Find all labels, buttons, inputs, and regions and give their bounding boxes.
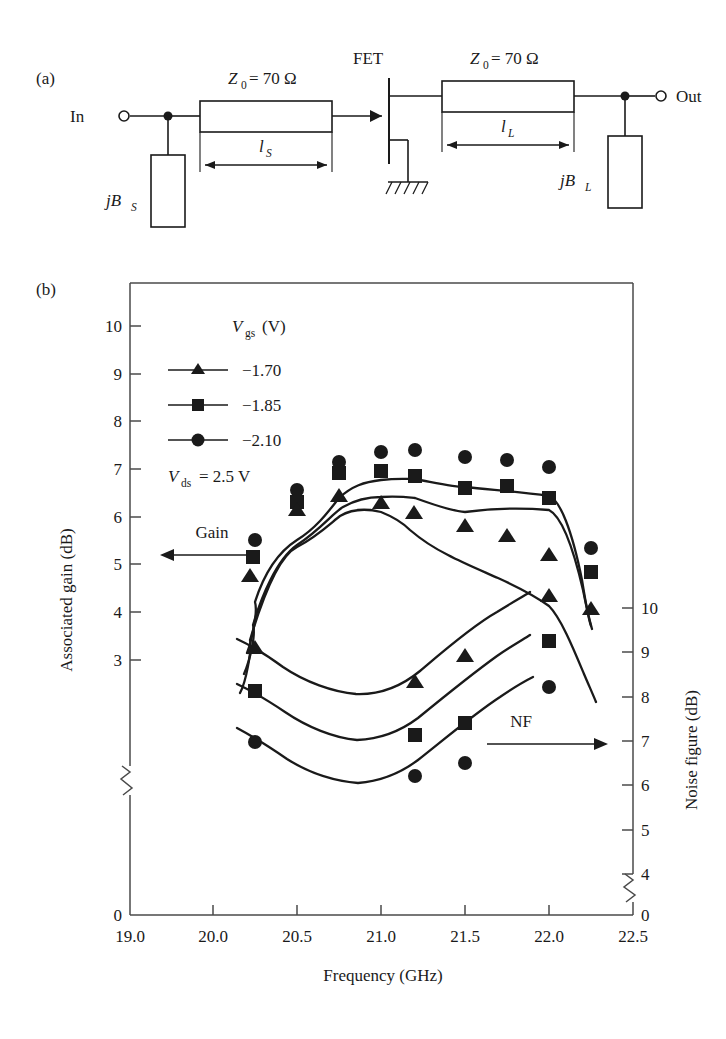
output-terminal <box>656 91 666 101</box>
ls-arrow-left <box>205 161 215 169</box>
right-tick-label-5: 5 <box>641 821 650 840</box>
x-tick-label-21.5: 21.5 <box>450 927 480 946</box>
ground-hatch-1 <box>386 182 392 194</box>
load-node-dot <box>621 92 630 101</box>
left-axis-break-mark <box>121 766 132 795</box>
legend-title: V gs (V) <box>232 317 286 340</box>
nf-label: NF <box>510 712 532 731</box>
z0-source-symbol: Z <box>228 69 238 88</box>
legend-label-1: −1.70 <box>242 361 281 380</box>
z0-source-label: Z 0 = 70 Ω <box>228 69 297 91</box>
legend-title-symbol: V <box>232 317 245 336</box>
right-axis-break-mark <box>624 874 635 902</box>
z0-load-label: Z 0 = 70 Ω <box>470 49 539 71</box>
arrow-left-icon <box>160 549 174 561</box>
left-tick-label-10: 10 <box>105 317 122 336</box>
z0-load-value: = 70 Ω <box>491 49 539 68</box>
source-node-dot <box>164 112 173 121</box>
circuit-diagram-panel: (a) In Out FET Z 0 = 70 Ω Z 0 = 70 Ω l S… <box>0 0 726 250</box>
jbl-label: jB L <box>558 171 591 193</box>
y-axis-left-title: Associated gain (dB) <box>57 528 76 672</box>
legend-title-sub: gs <box>245 327 256 340</box>
legend-label-3: −2.10 <box>242 431 281 450</box>
y-axis-right-title: Noise figure (dB) <box>682 690 701 810</box>
right-tick-label-7: 7 <box>641 732 650 751</box>
nf-curve-square <box>237 635 530 740</box>
lL-symbol: l <box>501 117 506 136</box>
x-tick-label-22.5: 22.5 <box>618 927 648 946</box>
lL-sub: L <box>507 127 514 139</box>
ground-hatch-2 <box>395 182 401 194</box>
ground-hatch-5 <box>422 182 428 194</box>
left-tick-label-0: 0 <box>114 906 123 925</box>
right-tick-label-0: 0 <box>641 906 650 925</box>
right-tick-label-9: 9 <box>641 643 650 662</box>
right-tick-label-4: 4 <box>641 865 650 884</box>
ground-hatch-4 <box>413 182 419 194</box>
legend-title-unit: (V) <box>262 317 286 336</box>
triangle-marker-icon <box>191 363 205 374</box>
jbl-sub: L <box>584 181 591 193</box>
fet-label: FET <box>353 49 384 68</box>
left-tick-label-7: 7 <box>114 460 123 479</box>
vds-rest: = 2.5 V <box>199 467 251 486</box>
panel-b-label: (b) <box>36 280 56 299</box>
lL-label: l L <box>501 117 514 139</box>
legend-item-triangle: −1.70 <box>168 361 281 380</box>
x-tick-label-22.0: 22.0 <box>534 927 564 946</box>
circle-marker-icon <box>192 434 205 447</box>
z0-load-symbol: Z <box>470 49 480 68</box>
jbs-sub: S <box>131 201 137 213</box>
ls-arrow-right <box>317 161 327 169</box>
legend: V gs (V) −1.70 −1.85 −2.10 <box>168 317 286 450</box>
input-label: In <box>70 107 85 126</box>
z0-load-sub: 0 <box>483 59 489 71</box>
figure-container: (a) In Out FET Z 0 = 70 Ω Z 0 = 70 Ω l S… <box>0 0 726 1039</box>
left-tick-label-4: 4 <box>114 603 123 622</box>
source-stub-box <box>151 155 185 227</box>
x-tick-label-20.0: 20.0 <box>198 927 228 946</box>
input-terminal <box>119 111 129 121</box>
vds-sub: ds <box>181 477 192 489</box>
gain-annotation: Gain <box>160 523 250 561</box>
fet-input-arrowhead <box>370 110 382 122</box>
load-line-box <box>442 81 574 112</box>
left-tick-label-5: 5 <box>114 555 123 574</box>
x-axis-title: Frequency (GHz) <box>323 966 442 985</box>
left-tick-label-9: 9 <box>114 365 123 384</box>
right-tick-label-6: 6 <box>641 776 650 795</box>
left-axis-ticks <box>130 326 141 660</box>
right-axis-ticks <box>622 608 633 874</box>
left-tick-label-8: 8 <box>114 412 123 431</box>
ls-symbol: l <box>259 137 264 156</box>
panel-a-label: (a) <box>36 69 55 88</box>
square-marker-icon <box>192 399 204 411</box>
load-stub-box <box>608 136 642 208</box>
ls-label: l S <box>259 137 272 159</box>
nf-annotation: NF <box>487 712 608 750</box>
left-tick-label-6: 6 <box>114 508 123 527</box>
x-tick-label-19.0: 19.0 <box>115 927 145 946</box>
source-line-box <box>200 101 332 132</box>
jbs-symbol: jB <box>104 191 122 210</box>
x-tick-label-21.0: 21.0 <box>366 927 396 946</box>
right-tick-label-10: 10 <box>641 599 658 618</box>
ls-sub: S <box>266 147 272 159</box>
chart-panel: (b) 10 9 8 7 6 5 4 <box>0 250 726 1039</box>
nf-curve-circle <box>237 677 533 783</box>
jbl-symbol: jB <box>558 171 576 190</box>
arrow-right-icon <box>594 738 608 750</box>
x-tick-label-20.5: 20.5 <box>282 927 312 946</box>
right-tick-label-8: 8 <box>641 688 650 707</box>
z0-source-sub: 0 <box>241 79 247 91</box>
legend-item-circle: −2.10 <box>168 431 281 450</box>
legend-label-2: −1.85 <box>242 396 281 415</box>
output-label: Out <box>676 87 702 106</box>
x-axis-ticks <box>213 905 549 915</box>
nf-curve-triangle <box>237 592 530 694</box>
legend-item-square: −1.85 <box>168 396 281 415</box>
vds-annotation: V ds = 2.5 V <box>168 467 251 489</box>
gain-label: Gain <box>195 523 229 542</box>
left-tick-label-3: 3 <box>114 651 123 670</box>
vds-symbol: V <box>168 467 181 486</box>
